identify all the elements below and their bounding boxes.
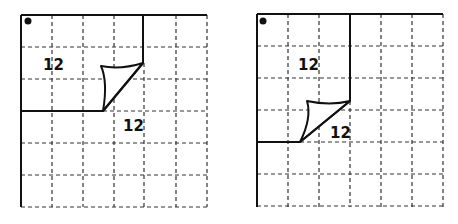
reference-dot-left — [25, 18, 32, 25]
figure-left: 12 12 — [21, 15, 207, 207]
reference-dot-right — [260, 18, 267, 25]
origami-diagram: 12 12 12 12 — [0, 0, 458, 224]
label-12-fold-right: 12 — [330, 124, 351, 142]
label-12-top-left: 12 — [43, 56, 64, 74]
label-12-top-right: 12 — [298, 56, 319, 74]
figure-right: 12 12 — [257, 14, 443, 207]
label-12-fold-left: 12 — [123, 117, 144, 135]
